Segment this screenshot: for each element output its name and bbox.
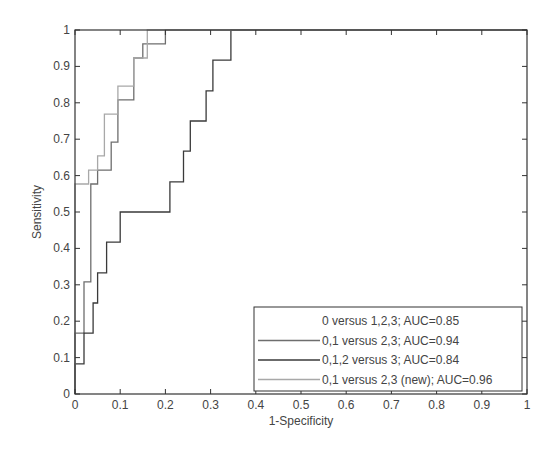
x-axis-label: 1-Specificity (269, 414, 334, 428)
legend-entry-label: 0,1 versus 2,3; AUC=0.94 (322, 334, 459, 348)
x-tick-label: 0.6 (338, 398, 355, 412)
y-tick-label: 0.6 (53, 169, 70, 183)
y-tick-label: 0 (63, 387, 70, 401)
legend: 0 versus 1,2,3; AUC=0.850,1 versus 2,3; … (254, 307, 522, 391)
x-tick-label: 0.9 (473, 398, 490, 412)
y-tick-label: 0.5 (53, 205, 70, 219)
legend-entry-label: 0 versus 1,2,3; AUC=0.85 (322, 314, 459, 328)
y-tick-label: 0.1 (53, 351, 70, 365)
x-tick-label: 1 (524, 398, 531, 412)
x-tick-label: 0.2 (157, 398, 174, 412)
y-tick-label: 1 (63, 23, 70, 37)
y-tick-label: 0.3 (53, 278, 70, 292)
roc-chart: 00.10.20.30.40.50.60.70.80.9100.10.20.30… (0, 0, 553, 457)
y-axis-label: Sensitivity (30, 185, 44, 239)
x-tick-label: 0.5 (293, 398, 310, 412)
y-tick-label: 0.8 (53, 96, 70, 110)
y-tick-label: 0.7 (53, 132, 70, 146)
y-tick-label: 0.9 (53, 59, 70, 73)
legend-entry-label: 0,1,2 versus 3; AUC=0.84 (322, 353, 459, 367)
x-tick-label: 0.8 (428, 398, 445, 412)
x-tick-label: 0.4 (247, 398, 264, 412)
x-tick-label: 0.3 (202, 398, 219, 412)
x-tick-label: 0.7 (383, 398, 400, 412)
x-tick-label: 0 (72, 398, 79, 412)
y-tick-label: 0.2 (53, 314, 70, 328)
legend-entry-label: 0,1 versus 2,3 (new); AUC=0.96 (322, 373, 493, 387)
y-tick-label: 0.4 (53, 241, 70, 255)
x-tick-label: 0.1 (112, 398, 129, 412)
